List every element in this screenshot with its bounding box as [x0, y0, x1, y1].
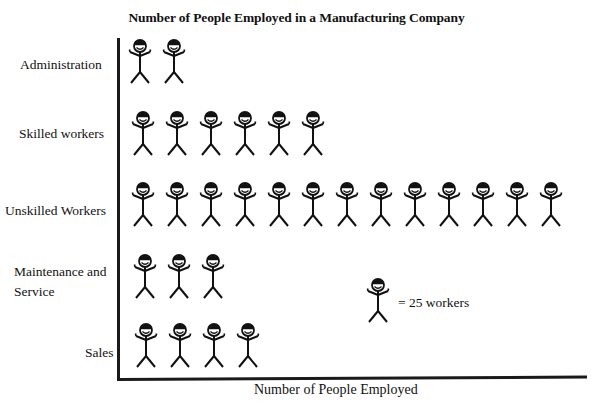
y-axis	[117, 38, 120, 381]
chart-title: Number of People Employed in a Manufactu…	[0, 10, 593, 26]
stick-figure-icon	[128, 39, 152, 85]
stick-figure-icon	[236, 323, 260, 369]
stick-figure-icon	[168, 323, 192, 369]
row-label-skilled-workers: Skilled workers	[19, 124, 104, 144]
stick-figure-icon	[165, 182, 189, 228]
stick-figure-icon	[133, 254, 157, 300]
pictograph-row-unskilled-workers	[131, 182, 573, 228]
stick-figure-icon	[301, 182, 325, 228]
stick-figure-icon	[199, 111, 223, 157]
stick-figure-icon	[366, 278, 390, 324]
stick-figure-icon	[505, 182, 529, 228]
stick-figure-icon	[539, 182, 563, 228]
row-label-line: Maintenance and	[14, 262, 107, 282]
stick-figure-icon	[301, 111, 325, 157]
stick-figure-icon	[162, 39, 186, 85]
stick-figure-icon	[131, 182, 155, 228]
row-label-line: Service	[14, 282, 107, 302]
stick-figure-icon	[131, 111, 155, 157]
pictograph-row-administration	[128, 39, 196, 85]
row-label-sales: Sales	[85, 343, 114, 363]
pictograph-row-skilled-workers	[131, 111, 335, 157]
stick-figure-icon	[471, 182, 495, 228]
stick-figure-icon	[369, 182, 393, 228]
stick-figure-icon	[403, 182, 427, 228]
stick-figure-icon	[335, 182, 359, 228]
stick-figure-icon	[134, 323, 158, 369]
stick-figure-icon	[267, 111, 291, 157]
stick-figure-icon	[233, 182, 257, 228]
stick-figure-icon	[202, 323, 226, 369]
stick-figure-icon	[267, 182, 291, 228]
pictograph-row-sales	[134, 323, 270, 369]
row-label-administration: Administration	[20, 55, 102, 75]
stick-figure-icon	[165, 111, 189, 157]
stick-figure-icon	[366, 278, 398, 328]
legend-text: = 25 workers	[398, 295, 469, 311]
x-axis-label: Number of People Employed	[254, 382, 418, 398]
x-axis	[117, 376, 587, 381]
stick-figure-icon	[167, 254, 191, 300]
stick-figure-icon	[437, 182, 461, 228]
stick-figure-icon	[233, 111, 257, 157]
row-label-maintenance-and-service: Maintenance and Service	[14, 262, 107, 302]
row-label-unskilled-workers: Unskilled Workers	[5, 201, 106, 221]
pictograph-row-maintenance-and-service	[133, 254, 235, 300]
stick-figure-icon	[201, 254, 225, 300]
stick-figure-icon	[199, 182, 223, 228]
legend: = 25 workers	[366, 278, 469, 328]
